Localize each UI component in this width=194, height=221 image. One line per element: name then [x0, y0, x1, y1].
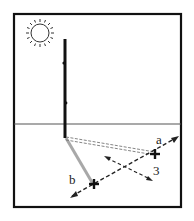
sun-shadow-diagram: a b 3	[0, 0, 194, 221]
cross-mark-icon	[150, 149, 160, 159]
diagram-frame	[14, 14, 181, 207]
label-3: 3	[153, 163, 160, 178]
label-b: b	[69, 172, 76, 187]
line-3	[104, 156, 153, 181]
stick	[62, 39, 67, 138]
shadow-ray-to-a	[66, 137, 155, 155]
label-a: a	[156, 132, 162, 147]
sun-icon	[26, 19, 54, 47]
